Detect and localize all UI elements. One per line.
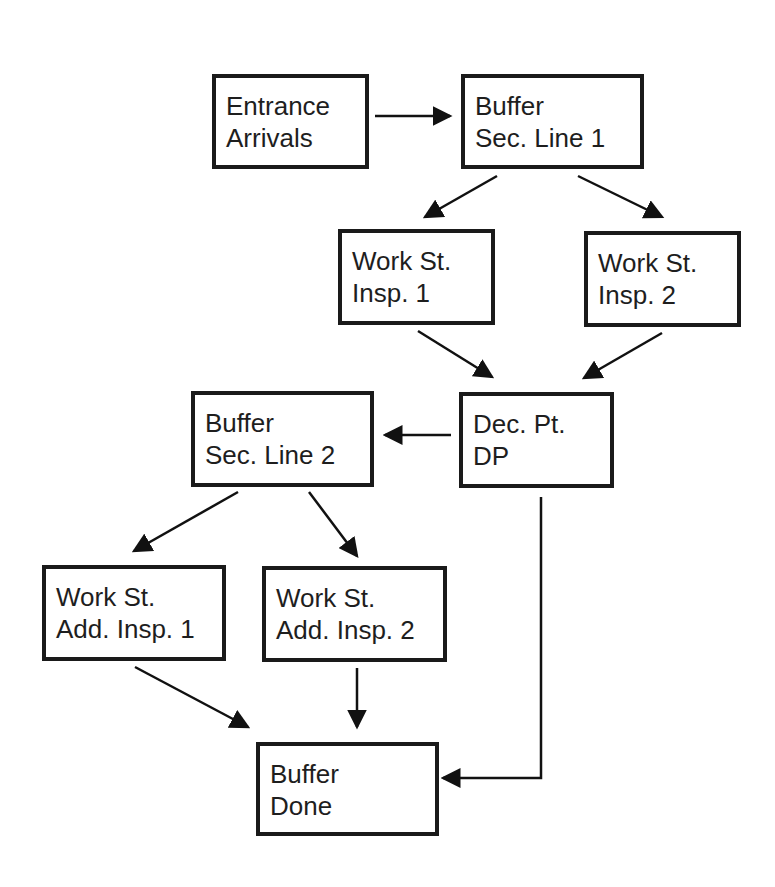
node-label-line1: Dec. Pt. <box>473 408 610 440</box>
node-label-line1: Entrance <box>226 90 365 122</box>
arrow-buffer1-to-ws1 <box>425 176 497 217</box>
node-buffer2: BufferSec. Line 2 <box>191 391 374 487</box>
node-label-line2: Insp. 2 <box>598 279 737 311</box>
node-ws2: Work St.Insp. 2 <box>584 231 741 327</box>
node-dp: Dec. Pt.DP <box>459 392 614 488</box>
node-label-line2: Sec. Line 2 <box>205 439 370 471</box>
flow-diagram: EntranceArrivalsBufferSec. Line 1Work St… <box>0 0 775 887</box>
node-label-line1: Work St. <box>598 247 737 279</box>
node-label-line1: Work St. <box>352 245 491 277</box>
node-label-line1: Buffer <box>270 758 435 790</box>
arrow-ws1-to-dp <box>418 331 492 377</box>
node-label-line2: Sec. Line 1 <box>475 122 640 154</box>
arrow-add1-to-done <box>135 667 248 727</box>
node-label-line2: Arrivals <box>226 122 365 154</box>
node-label-line2: Add. Insp. 2 <box>276 614 443 646</box>
node-label-line2: Insp. 1 <box>352 277 491 309</box>
arrow-buffer2-to-add1 <box>134 492 238 551</box>
arrow-dp-to-done <box>443 497 541 778</box>
node-label-line2: Done <box>270 790 435 822</box>
node-entrance: EntranceArrivals <box>212 74 369 169</box>
node-ws1: Work St.Insp. 1 <box>338 229 495 325</box>
arrow-buffer2-to-add2 <box>309 492 357 556</box>
node-done: BufferDone <box>256 742 439 836</box>
node-label-line1: Work St. <box>276 582 443 614</box>
node-label-line2: Add. Insp. 1 <box>56 613 222 645</box>
node-label-line1: Buffer <box>475 90 640 122</box>
arrow-buffer1-to-ws2 <box>578 176 662 217</box>
node-buffer1: BufferSec. Line 1 <box>461 74 644 169</box>
arrow-ws2-to-dp <box>584 333 662 378</box>
node-add1: Work St.Add. Insp. 1 <box>42 565 226 661</box>
node-label-line1: Work St. <box>56 581 222 613</box>
node-add2: Work St.Add. Insp. 2 <box>262 566 447 662</box>
node-label-line1: Buffer <box>205 407 370 439</box>
node-label-line2: DP <box>473 440 610 472</box>
